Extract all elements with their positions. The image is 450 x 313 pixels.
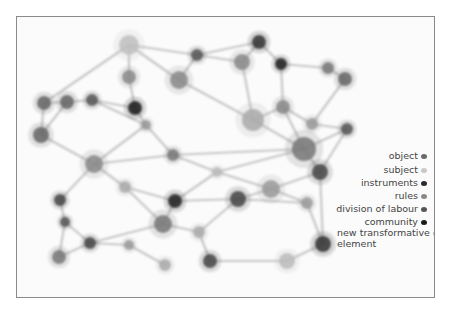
legend-label: object <box>389 150 418 161</box>
network-node <box>86 94 98 106</box>
legend-swatch-icon <box>421 181 427 186</box>
network-node <box>60 217 70 227</box>
legend-item: subject <box>384 164 427 175</box>
network-node <box>203 254 217 268</box>
network-node <box>191 49 203 61</box>
network-node <box>85 155 103 173</box>
network-node <box>193 226 205 238</box>
network-node <box>119 35 139 55</box>
network-node <box>306 118 318 130</box>
network-node <box>124 240 134 250</box>
network-node <box>252 35 266 49</box>
network-node <box>322 62 334 74</box>
network-node <box>33 127 49 143</box>
network-node <box>338 72 352 86</box>
network-node <box>154 215 172 233</box>
legend-item: community <box>364 216 427 227</box>
network-node <box>60 95 74 109</box>
network-node <box>292 137 316 161</box>
diagram-frame: objectsubjectinstrumentsrulesdivision of… <box>16 16 435 298</box>
legend-item: object <box>389 150 427 161</box>
network-node <box>128 101 142 115</box>
legend-item: instruments <box>361 177 427 188</box>
legend-label: community <box>364 216 418 227</box>
network-node <box>312 164 328 180</box>
legend-label: rules <box>395 190 418 201</box>
legend-label: instruments <box>361 177 418 188</box>
legend-swatch-icon <box>421 207 427 212</box>
network-node <box>301 197 313 209</box>
network-node <box>54 194 66 206</box>
network-node <box>234 54 250 70</box>
network-node <box>275 58 287 70</box>
network-node <box>159 259 171 271</box>
network-diagram <box>17 17 435 298</box>
network-node <box>212 167 222 177</box>
legend-label: division of labour <box>336 203 418 214</box>
network-node <box>170 71 188 89</box>
network-node <box>230 191 246 207</box>
network-node <box>119 181 131 193</box>
network-node <box>315 236 331 252</box>
legend-item: new transformativeelement <box>337 227 427 249</box>
legend-label: subject <box>384 164 418 175</box>
network-node <box>52 250 66 264</box>
legend-swatch-icon <box>421 220 427 225</box>
network-node <box>167 149 179 161</box>
network-node <box>122 70 136 84</box>
network-node <box>37 96 51 110</box>
network-node <box>84 237 96 249</box>
legend-item: division of labour <box>336 203 427 214</box>
legend-label-continuation: element <box>337 238 427 249</box>
network-node <box>279 253 295 269</box>
network-node <box>242 109 264 131</box>
legend-swatch-icon <box>421 168 427 173</box>
network-node <box>262 180 280 198</box>
legend-item: rules <box>395 190 427 201</box>
legend-swatch-icon <box>421 194 427 199</box>
network-node <box>141 120 151 130</box>
legend-label: new transformative <box>337 227 430 238</box>
network-node <box>276 100 290 114</box>
network-node <box>341 123 353 135</box>
network-node <box>168 194 182 208</box>
legend-swatch-icon <box>421 154 427 159</box>
legend-swatch-icon <box>433 231 435 236</box>
